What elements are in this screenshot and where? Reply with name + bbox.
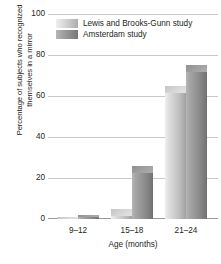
legend-swatch-icon-light (56, 19, 78, 28)
bar-lewis-and-brooks-gunn-study-21-24 (165, 86, 186, 219)
y-tick-label-100: 100 (23, 10, 45, 18)
legend-item-lewis-and-brooks-gunn-study: Lewis and Brooks-Gunn study (56, 19, 192, 28)
y-axis-tick-labels: 100 80 60 40 20 0 (22, 0, 45, 264)
legend: Lewis and Brooks-Gunn study Amsterdam st… (56, 19, 192, 39)
bar-chart-figure: Percentage of subjects who recognized th… (0, 0, 221, 264)
legend-item-amsterdam-study: Amsterdam study (56, 30, 192, 39)
x-axis-title: Age (months) (48, 240, 218, 249)
x-tick-label-9-12: 9–12 (54, 226, 102, 235)
x-tick-label-15-18: 15–18 (108, 226, 156, 235)
x-axis-tick-labels: 9–12 15–18 21–24 (48, 226, 218, 237)
bar-amsterdam-study-21-24 (186, 65, 207, 219)
y-tick-label-0: 0 (23, 215, 45, 223)
bar-lewis-and-brooks-gunn-study-9-12 (57, 217, 78, 219)
plot-area (48, 14, 218, 219)
y-tick-label-20: 20 (23, 174, 45, 182)
legend-swatch-icon-dark (56, 30, 78, 39)
y-tick-label-80: 80 (23, 51, 45, 59)
legend-label-amsterdam-study: Amsterdam study (83, 30, 147, 39)
y-tick-label-60: 60 (23, 92, 45, 100)
y-tick-label-40: 40 (23, 133, 45, 141)
x-tick-label-21-24: 21–24 (162, 226, 210, 235)
bars-layer (48, 14, 218, 219)
bar-amsterdam-study-9-12 (78, 215, 99, 219)
bar-amsterdam-study-15-18 (132, 166, 153, 219)
legend-label-lewis-and-brooks-gunn-study: Lewis and Brooks-Gunn study (83, 19, 192, 28)
bar-lewis-and-brooks-gunn-study-15-18 (111, 209, 132, 219)
